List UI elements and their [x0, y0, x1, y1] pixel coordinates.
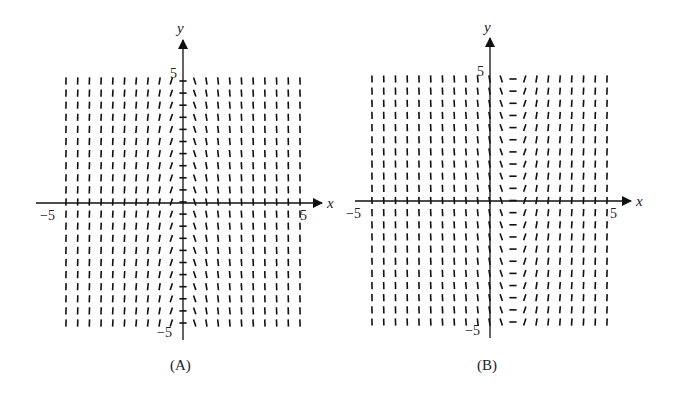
slope-segment — [477, 282, 478, 289]
slope-segment — [218, 271, 219, 278]
slope-segment — [500, 221, 502, 228]
slope-segment — [466, 209, 467, 216]
slope-segment — [230, 319, 231, 326]
slope-segment — [548, 160, 549, 167]
slope-segment — [136, 126, 137, 133]
slope-segment — [524, 234, 526, 241]
slope-segment — [536, 258, 537, 265]
slope-segment — [159, 114, 160, 121]
slope-segment — [560, 270, 561, 277]
slope-segment — [548, 112, 549, 119]
slope-segment — [218, 319, 219, 326]
slope-segment — [206, 307, 207, 314]
slope-segment — [560, 282, 561, 289]
slope-segment — [170, 211, 172, 218]
slope-segment — [218, 150, 219, 157]
slope-segment — [206, 319, 207, 326]
slope-segment — [477, 136, 478, 143]
panel-label-a: (A) — [170, 357, 191, 374]
slope-segment — [218, 211, 219, 218]
slope-segment — [194, 90, 196, 97]
slope-segment — [524, 258, 526, 265]
slope-segment — [194, 162, 196, 169]
slope-segment — [136, 307, 137, 314]
slope-segment — [524, 319, 526, 326]
slope-segment — [218, 247, 219, 254]
slope-segment — [466, 100, 467, 107]
slope-segment — [194, 223, 196, 230]
slope-segment — [536, 282, 537, 289]
slope-segment — [560, 318, 561, 325]
slope-segment — [524, 294, 526, 301]
slope-segment — [206, 198, 207, 205]
slope-segment — [194, 199, 196, 206]
slope-segment — [159, 211, 160, 218]
slope-segment — [500, 148, 502, 155]
slope-segment — [548, 124, 549, 131]
slope-segment — [548, 100, 549, 107]
slope-segment — [560, 136, 561, 143]
slope-segment — [218, 174, 219, 181]
slope-segment — [136, 150, 137, 157]
slope-segment — [148, 223, 149, 230]
slope-segment — [206, 223, 207, 230]
slope-segment — [194, 271, 196, 278]
x-axis-label-b: x — [635, 193, 643, 209]
slope-segment — [159, 90, 160, 97]
slope-segment — [148, 126, 149, 133]
slope-segment — [159, 102, 160, 109]
slope-segment — [218, 307, 219, 314]
slope-segment — [466, 294, 467, 301]
slope-segment — [170, 102, 172, 109]
slope-segment — [500, 294, 502, 301]
slope-segment — [136, 198, 137, 205]
slope-segment — [500, 136, 502, 143]
slope-field-panel-b: x y −5 5 5 −5 (B) — [346, 19, 643, 374]
slope-segment — [560, 185, 561, 192]
slope-segment — [148, 162, 149, 169]
y-max-label-b: 5 — [477, 64, 484, 79]
slope-segment — [536, 246, 537, 253]
slope-segment — [500, 319, 502, 326]
slope-segment — [170, 223, 172, 230]
slope-segment — [536, 294, 537, 301]
slope-segment — [136, 223, 137, 230]
slope-segment — [477, 306, 478, 313]
slope-segment — [218, 198, 219, 205]
slope-segment — [466, 136, 467, 143]
slope-segment — [500, 100, 502, 107]
y-axis-label-b: y — [482, 19, 491, 35]
y-axis-label-a: y — [175, 20, 184, 36]
slope-segment — [466, 221, 467, 228]
slope-segment — [148, 283, 149, 290]
slope-segment — [136, 77, 137, 84]
slope-segment — [500, 185, 502, 192]
slope-segment — [136, 162, 137, 169]
slope-segment — [230, 211, 231, 218]
slope-segment — [148, 150, 149, 157]
slope-segment — [206, 271, 207, 278]
slope-segment — [148, 198, 149, 205]
slope-segment — [218, 138, 219, 145]
slope-segment — [194, 174, 196, 181]
slope-segment — [218, 114, 219, 121]
slope-segment — [194, 211, 196, 218]
slope-segment — [536, 306, 537, 313]
slope-segment — [500, 234, 502, 241]
slope-segment — [206, 90, 207, 97]
slope-segment — [194, 78, 196, 85]
slope-segment — [159, 295, 160, 302]
slope-segment — [148, 174, 149, 181]
slope-segment — [206, 102, 207, 109]
slope-segment — [194, 283, 196, 290]
slope-segment — [477, 148, 478, 155]
slope-segment — [218, 223, 219, 230]
slope-segment — [524, 246, 526, 253]
slope-segment — [206, 295, 207, 302]
slope-segment — [466, 148, 467, 155]
slope-segment — [548, 173, 549, 180]
slope-segment — [560, 124, 561, 131]
slope-segment — [136, 186, 137, 193]
slope-segment — [466, 306, 467, 313]
slope-segment — [148, 77, 149, 84]
